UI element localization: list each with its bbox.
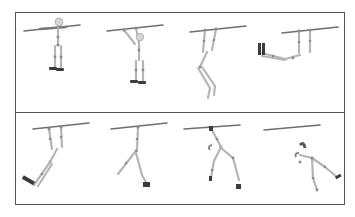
frame-3	[190, 26, 246, 98]
frame-7	[184, 125, 241, 189]
frame-2	[107, 25, 163, 84]
frame-6	[111, 123, 167, 187]
frame-8	[264, 125, 342, 191]
frame-4	[258, 27, 338, 60]
frame-5	[22, 123, 89, 186]
frame-1	[24, 18, 80, 71]
animation-frames: .bar{stroke:#6e6e6e;stroke-width:1.6;str…	[0, 0, 355, 217]
